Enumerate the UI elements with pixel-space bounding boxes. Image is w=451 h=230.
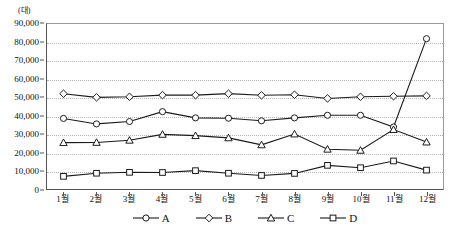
y-tick-mark — [40, 134, 44, 135]
data-point-marker — [226, 170, 232, 176]
x-tick-label: 5월 — [189, 195, 202, 204]
data-point-marker — [127, 169, 133, 175]
x-tick-label: 3월 — [123, 195, 136, 204]
data-point-marker — [330, 215, 336, 221]
x-tick-label: 6월 — [222, 195, 235, 204]
data-point-marker — [357, 112, 363, 118]
y-tick-label: 10,000 — [14, 167, 39, 176]
y-tick-label: 60,000 — [14, 74, 39, 83]
legend-label: A — [162, 213, 170, 224]
data-point-marker — [258, 92, 266, 100]
data-point-marker — [423, 138, 430, 145]
y-tick-mark — [40, 78, 44, 79]
data-point-marker — [259, 173, 265, 179]
series-D — [61, 158, 430, 179]
data-point-marker — [143, 215, 149, 221]
data-point-marker — [292, 171, 298, 177]
y-tick-mark — [40, 60, 44, 61]
data-point-marker — [225, 90, 233, 98]
x-tick-label: 11월 — [386, 195, 403, 204]
data-point-marker — [192, 91, 200, 99]
y-axis: 010,00020,00030,00040,00050,00060,00070,… — [0, 23, 44, 190]
series-C — [60, 126, 430, 153]
data-point-marker — [324, 95, 332, 103]
y-tick-mark — [40, 152, 44, 153]
x-tick-label: 7월 — [255, 195, 268, 204]
data-point-marker — [423, 92, 431, 100]
data-point-marker — [205, 214, 213, 222]
data-point-marker — [291, 115, 297, 121]
x-tick-mark — [394, 192, 395, 196]
y-tick-label: 30,000 — [14, 130, 39, 139]
y-tick-label: 70,000 — [14, 56, 39, 65]
legend-label: B — [225, 213, 232, 224]
data-point-marker — [193, 168, 199, 174]
y-axis-unit-label: (대) — [18, 4, 30, 15]
data-point-marker — [225, 115, 231, 121]
chart-legend: ABCD — [46, 208, 444, 228]
series-line — [64, 94, 427, 99]
data-point-marker — [126, 93, 134, 101]
data-point-marker — [159, 109, 165, 115]
x-tick-label: 12월 — [419, 195, 436, 204]
data-point-marker — [60, 115, 66, 121]
x-axis: 1월2월3월4월5월6월7월8월9월10월11월12월 — [46, 192, 444, 208]
data-point-marker — [93, 94, 101, 102]
x-tick-label: 2월 — [90, 195, 103, 204]
series-A — [60, 36, 429, 130]
legend-item-B[interactable]: B — [196, 212, 232, 224]
data-point-marker — [391, 158, 397, 164]
data-point-marker — [291, 91, 299, 99]
x-tick-label: 9월 — [322, 195, 335, 204]
legend-label: C — [287, 213, 294, 224]
data-point-marker — [192, 115, 198, 121]
legend-item-A[interactable]: A — [133, 212, 170, 224]
data-point-marker — [126, 118, 132, 124]
y-tick-mark — [40, 190, 44, 191]
x-tick-mark — [427, 192, 428, 196]
data-point-marker — [60, 90, 68, 98]
x-tick-mark — [195, 192, 196, 196]
legend-item-D[interactable]: D — [320, 212, 357, 224]
legend-item-C[interactable]: C — [258, 212, 294, 224]
x-tick-label: 8월 — [289, 195, 302, 204]
y-tick-label: 40,000 — [14, 111, 39, 120]
x-tick-mark — [328, 192, 329, 196]
series-line — [64, 39, 427, 127]
data-point-marker — [424, 167, 430, 173]
y-tick-label: 20,000 — [14, 148, 39, 157]
data-point-marker — [390, 92, 398, 100]
data-point-marker — [160, 170, 166, 176]
x-tick-mark — [361, 192, 362, 196]
series-B — [60, 90, 431, 102]
series-line — [64, 130, 427, 151]
legend-label: D — [349, 213, 357, 224]
series-line — [64, 161, 427, 176]
x-tick-mark — [228, 192, 229, 196]
x-tick-label: 4월 — [156, 195, 169, 204]
x-tick-mark — [63, 192, 64, 196]
data-point-marker — [258, 118, 264, 124]
y-tick-mark — [40, 23, 44, 24]
x-tick-label: 1월 — [56, 195, 69, 204]
legend-marker-circle-icon — [133, 212, 159, 224]
series-layer — [47, 24, 443, 189]
y-tick-mark — [40, 171, 44, 172]
y-tick-label: 0 — [35, 186, 40, 195]
data-point-marker — [324, 112, 330, 118]
legend-marker-square-icon — [320, 212, 346, 224]
y-tick-mark — [40, 41, 44, 42]
data-point-marker — [325, 163, 331, 169]
y-tick-label: 80,000 — [14, 37, 39, 46]
x-tick-mark — [262, 192, 263, 196]
y-tick-label: 50,000 — [14, 93, 39, 102]
legend-marker-diamond-icon — [196, 212, 222, 224]
x-tick-mark — [96, 192, 97, 196]
y-tick-mark — [40, 115, 44, 116]
data-point-marker — [61, 174, 67, 180]
data-point-marker — [423, 36, 429, 42]
data-point-marker — [291, 130, 298, 137]
x-tick-label: 10월 — [353, 195, 370, 204]
x-tick-mark — [295, 192, 296, 196]
y-tick-label: 90,000 — [14, 19, 39, 28]
